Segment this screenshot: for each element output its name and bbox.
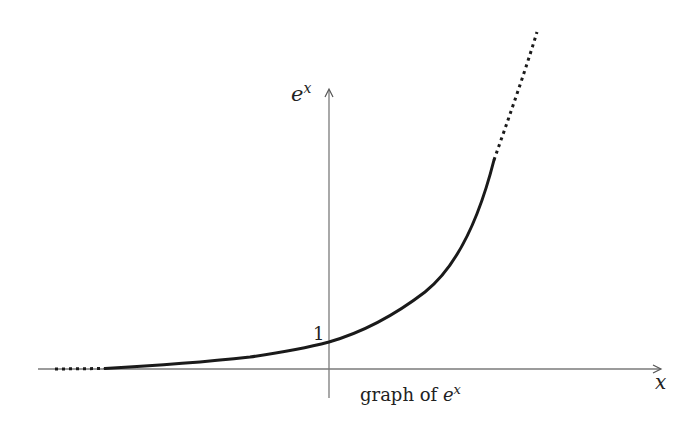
y-intercept-label: 1 — [313, 323, 324, 344]
y-axis — [325, 89, 333, 398]
curve-top-dotted-tail — [494, 32, 537, 160]
y-axis-label: ex — [291, 80, 311, 106]
figure-caption: graph of ex — [360, 382, 462, 405]
x-axis-label: x — [655, 370, 666, 394]
exp-graph: 1 ex x graph of ex — [0, 0, 691, 433]
exp-curve — [105, 160, 494, 369]
